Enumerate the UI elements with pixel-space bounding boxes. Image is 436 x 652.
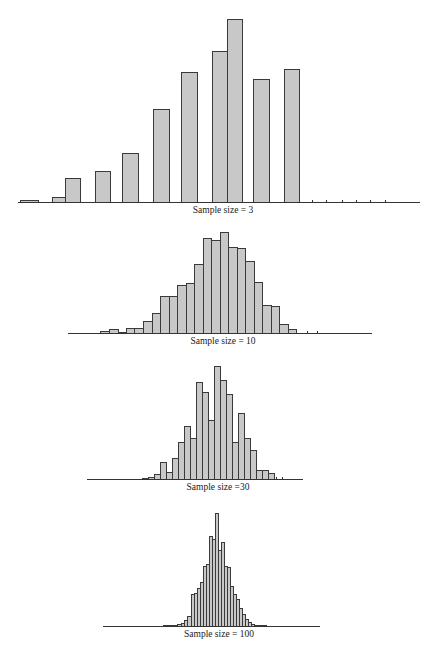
caption-sample-size-30: Sample size =30 xyxy=(187,482,250,492)
histogram-sample-size-100 xyxy=(0,0,436,652)
caption-sample-size-10: Sample size = 10 xyxy=(190,336,255,346)
histogram-bar xyxy=(188,617,192,627)
caption-sample-size-3: Sample size = 3 xyxy=(193,205,254,215)
caption-sample-size-100: Sample size = 100 xyxy=(184,629,254,639)
histogram-plot-area xyxy=(0,0,436,652)
